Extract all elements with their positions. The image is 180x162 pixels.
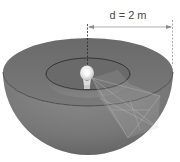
- dimension-label: d = 2 m: [110, 9, 147, 21]
- diagram-canvas: d = 2 m: [0, 0, 180, 162]
- hemisphere-diagram: d = 2 m: [0, 0, 180, 162]
- radius-dimension: d = 2 m: [88, 9, 172, 29]
